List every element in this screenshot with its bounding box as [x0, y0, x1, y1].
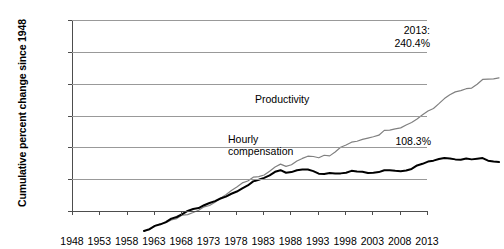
y-axis-title: Cumulative percent change since 1948	[16, 6, 28, 221]
annotation-hourly-compensation-end: 108.3%	[395, 135, 431, 148]
annotation-hourly-value: 108.3%	[395, 135, 431, 148]
series-label-productivity-text: Productivity	[255, 93, 309, 105]
series-label-productivity: Productivity	[255, 93, 309, 105]
series-label-hourly-compensation: Hourly compensation	[228, 133, 293, 157]
y-tick-mark-250%	[68, 52, 72, 53]
hourly-compensation-line	[144, 158, 499, 231]
x-tick-mark-1958	[127, 211, 128, 215]
y-tick-mark-50%	[68, 179, 72, 180]
x-tick-mark-1988	[290, 211, 291, 215]
x-tick-mark-1993	[318, 211, 319, 215]
annotation-productivity-end: 2013: 240.4%	[394, 24, 430, 49]
gridline-300%	[72, 20, 427, 21]
y-tick-mark-300%	[68, 20, 72, 21]
x-tick-mark-1963	[154, 211, 155, 215]
x-tick-mark-1948	[72, 211, 73, 215]
gridline-0%	[72, 211, 427, 212]
x-tick-mark-2013	[427, 211, 428, 215]
x-tick-mark-1968	[181, 211, 182, 215]
x-tick-mark-1973	[209, 211, 210, 215]
y-tick-mark-100%	[68, 147, 72, 148]
series-label-hourly-text-line2: compensation	[228, 145, 293, 157]
x-tick-mark-1998	[345, 211, 346, 215]
annotation-productivity-year: 2013:	[394, 24, 430, 37]
y-tick-mark-150%	[68, 116, 72, 117]
gridline-250%	[72, 52, 427, 53]
y-tick-mark-200%	[68, 84, 72, 85]
x-tick-mark-1983	[263, 211, 264, 215]
x-tick-label-2013: 2013	[407, 235, 447, 247]
x-tick-mark-1978	[236, 211, 237, 215]
x-tick-mark-2008	[400, 211, 401, 215]
x-tick-mark-2003	[372, 211, 373, 215]
annotation-productivity-value: 240.4%	[394, 37, 430, 50]
x-tick-mark-1953	[99, 211, 100, 215]
series-label-hourly-text-line1: Hourly	[228, 133, 258, 145]
gridline-150%	[72, 116, 427, 117]
plot-area: 0%50%100%150%200%250%300%194819531958196…	[72, 20, 427, 211]
gridline-200%	[72, 84, 427, 85]
gridline-50%	[72, 179, 427, 180]
